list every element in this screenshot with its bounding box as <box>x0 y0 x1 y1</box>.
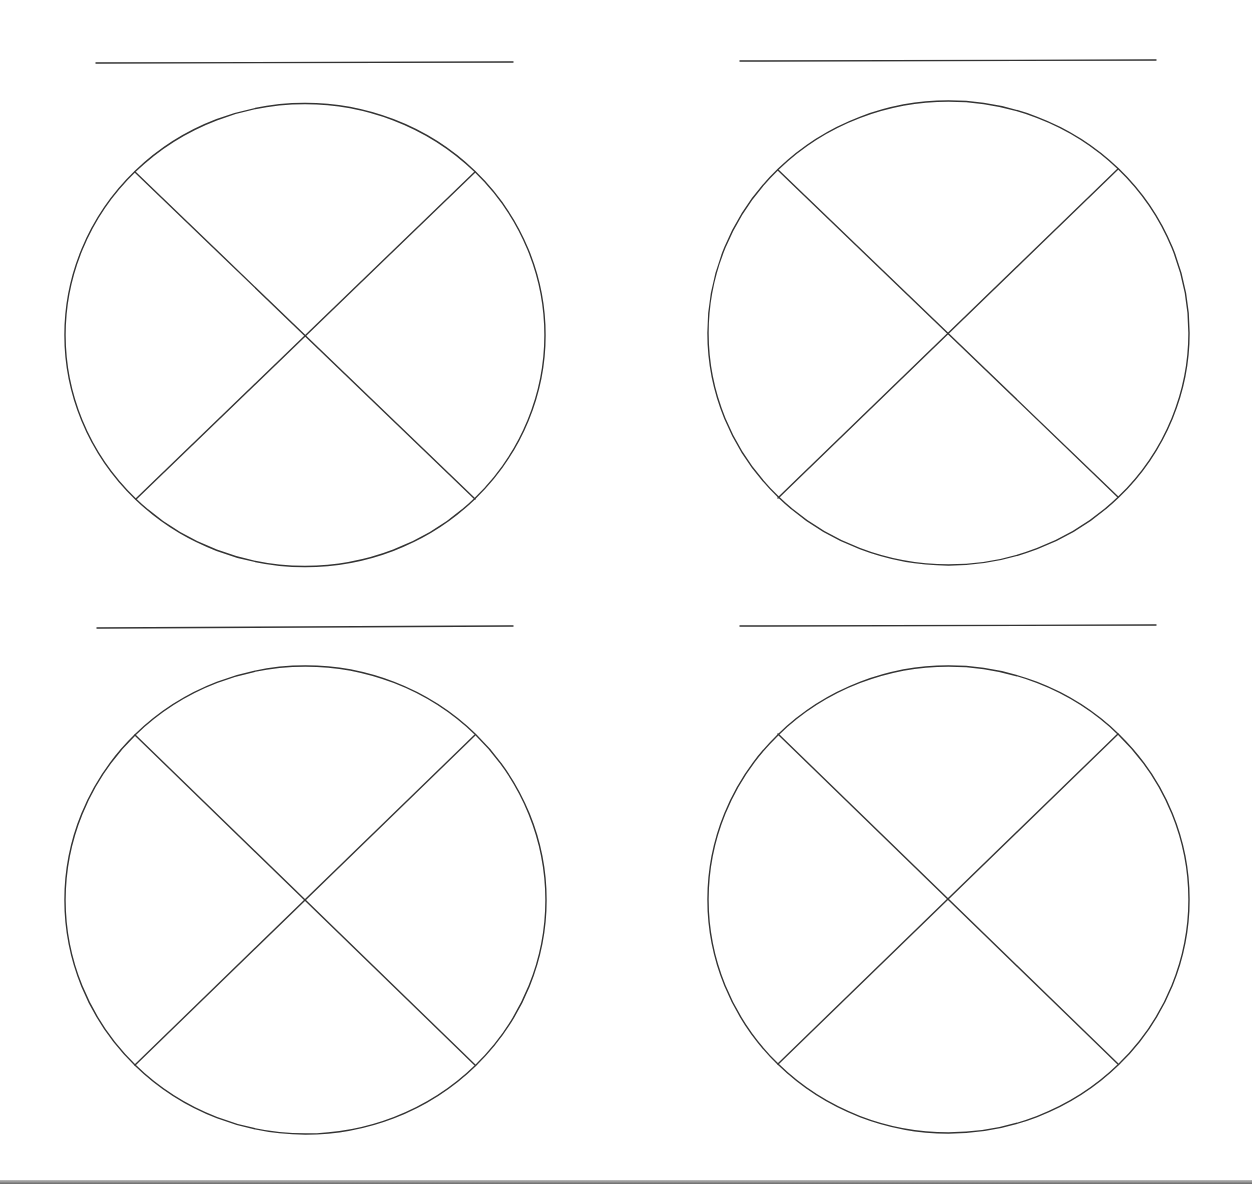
panel-top-right <box>708 60 1189 565</box>
title-write-line <box>740 60 1156 61</box>
title-write-line <box>96 62 513 63</box>
worksheet-canvas <box>0 0 1252 1184</box>
panel-bottom-left <box>65 626 546 1134</box>
page-bottom-edge <box>0 1180 1252 1184</box>
title-write-line <box>740 625 1156 626</box>
panel-bottom-right <box>708 625 1189 1133</box>
title-write-line <box>97 626 513 628</box>
panel-top-left <box>65 62 545 567</box>
